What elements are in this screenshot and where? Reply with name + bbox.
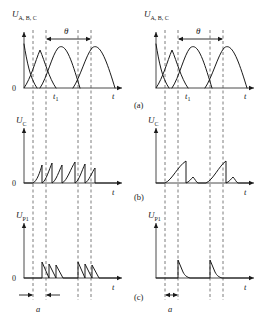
panel-label-a: (a) — [134, 100, 144, 110]
panel-label-c: (c) — [134, 292, 144, 302]
dashed-reference-lines-right — [165, 30, 223, 300]
theta-label-right: θ — [196, 26, 201, 36]
uabc-left-t1-label: t1 — [53, 91, 58, 102]
uc-left-xlabel: t — [112, 187, 115, 197]
uabc-right-phase-tail — [156, 44, 169, 88]
up1-left-y-arrow — [22, 223, 26, 228]
up1-left-ylabel: UP1 — [16, 210, 29, 222]
panel-up1-right: UP1 t a (c) — [134, 210, 254, 314]
uc-left-y-arrow — [22, 128, 26, 133]
uc-right-waveform — [156, 161, 250, 183]
panel-uabc-right: UA, B, C t θ t1 (a) — [134, 9, 254, 110]
panel-uabc-left: UA, B, C 0 t θ t1 — [12, 9, 122, 102]
up1-right-ylabel: UP1 — [148, 210, 161, 222]
uabc-left-theta-annotation: θ — [46, 26, 91, 41]
uc-right-ylabel: UC — [148, 115, 159, 127]
up1-left-waveform — [24, 262, 118, 278]
uabc-right-ylabel: UA, B, C — [144, 9, 169, 21]
uabc-left-xlabel: t — [112, 91, 115, 101]
uabc-right-theta-annotation: θ — [178, 26, 223, 41]
up1-right-a-annotation: a — [165, 293, 178, 314]
uabc-left-zero: 0 — [12, 84, 16, 93]
panel-uc-right: UC t (b) — [134, 115, 254, 202]
uabc-left-y-arrow — [22, 32, 26, 37]
up1-left-xlabel: t — [112, 282, 115, 292]
uabc-right-hump-3 — [205, 47, 247, 88]
waveform-figure: UA, B, C 0 t θ t1 UC 0 t — [0, 0, 263, 324]
uabc-right-xlabel: t — [244, 91, 247, 101]
uabc-right-t1-label: t1 — [185, 91, 190, 102]
figure-canvas: UA, B, C 0 t θ t1 UC 0 t — [0, 0, 263, 324]
uabc-left-phase-tail — [24, 44, 37, 88]
uc-left-waveform — [24, 162, 118, 183]
theta-label: θ — [64, 26, 69, 36]
uc-left-zero: 0 — [12, 179, 16, 188]
uc-right-xlabel: t — [244, 187, 247, 197]
a-label-right: a — [168, 304, 172, 314]
panel-label-b: (b) — [134, 192, 144, 202]
up1-right-waveform — [156, 260, 250, 278]
uabc-left-x-arrow — [117, 86, 122, 90]
up1-left-a-annotation: a — [19, 293, 60, 314]
a-label-left: a — [36, 304, 40, 314]
panel-uc-left: UC 0 t — [12, 115, 122, 197]
uabc-left-ylabel: UA, B, C — [12, 9, 37, 21]
up1-right-xlabel: t — [244, 282, 247, 292]
uc-left-ylabel: UC — [16, 115, 27, 127]
uabc-left-hump-3 — [73, 47, 115, 88]
uabc-right-x-arrow — [249, 86, 254, 90]
panel-up1-left: UP1 0 t a — [12, 210, 122, 314]
uc-right-y-arrow — [154, 128, 158, 133]
up1-right-y-arrow — [154, 223, 158, 228]
up1-left-zero: 0 — [12, 274, 16, 283]
uabc-right-y-arrow — [154, 32, 158, 37]
